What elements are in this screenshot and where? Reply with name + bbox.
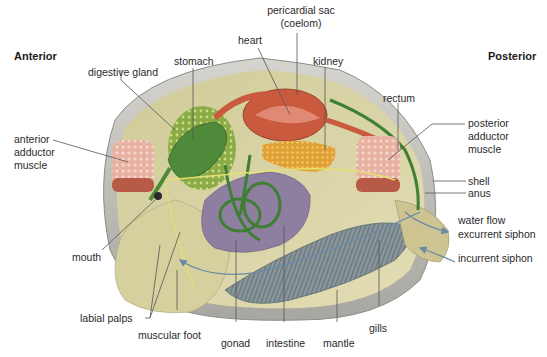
label-gills: gills	[369, 322, 387, 335]
posterior-adductor-muscle	[356, 136, 400, 192]
label-pericardial-sac: pericardial sac (coelom)	[262, 4, 340, 30]
clam-illustration	[0, 0, 547, 357]
label-stomach: stomach	[174, 55, 214, 68]
mouth	[154, 192, 162, 200]
label-anterior-adductor-muscle: anterior adductor muscle	[14, 133, 55, 172]
label-posterior-adductor-muscle: posterior adductor muscle	[468, 117, 509, 156]
label-incurrent-siphon: incurrent siphon	[458, 252, 533, 265]
label-gonad: gonad	[221, 337, 250, 350]
label-digestive-gland: digestive gland	[88, 66, 158, 79]
label-kidney: kidney	[313, 55, 343, 68]
anterior-adductor-muscle	[112, 140, 154, 192]
label-posterior: Posterior	[488, 50, 536, 63]
label-mouth: mouth	[72, 251, 101, 264]
label-mantle: mantle	[323, 337, 355, 350]
label-anterior: Anterior	[14, 50, 57, 63]
label-water-flow: water flow	[458, 214, 505, 227]
label-rectum: rectum	[383, 92, 415, 105]
label-heart: heart	[238, 34, 262, 47]
label-intestine: intestine	[266, 337, 305, 350]
label-anus: anus	[468, 187, 491, 200]
label-muscular-foot: muscular foot	[138, 329, 201, 342]
label-labial-palps: labial palps	[80, 312, 133, 325]
clam-anatomy-diagram: Anterior Posterior pericardial sac (coel…	[0, 0, 547, 357]
label-excurrent-siphon: excurrent siphon	[458, 228, 536, 241]
